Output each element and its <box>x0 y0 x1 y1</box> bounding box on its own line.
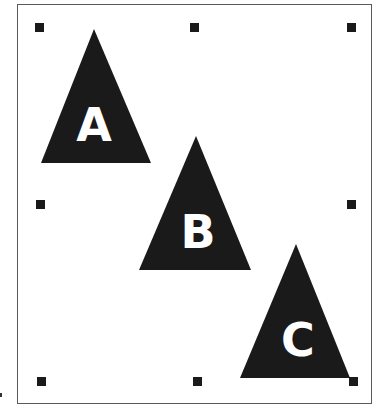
triangle-c-label: C <box>281 313 315 367</box>
handle-top-right[interactable] <box>347 23 356 32</box>
handle-bottom-right[interactable] <box>349 377 358 386</box>
handle-top-center[interactable] <box>190 23 199 32</box>
triangle-a[interactable]: A <box>41 29 151 163</box>
triangle-b-label: B <box>180 205 215 259</box>
handle-bottom-left[interactable] <box>37 377 46 386</box>
triangle-b[interactable]: B <box>139 136 251 270</box>
handle-middle-right[interactable] <box>347 200 356 209</box>
triangle-c[interactable]: C <box>240 244 350 378</box>
handle-top-left[interactable] <box>35 23 44 32</box>
handle-middle-left[interactable] <box>36 200 45 209</box>
handle-bottom-center[interactable] <box>193 377 202 386</box>
triangle-a-label: A <box>76 98 112 152</box>
edge-mark <box>0 393 2 397</box>
